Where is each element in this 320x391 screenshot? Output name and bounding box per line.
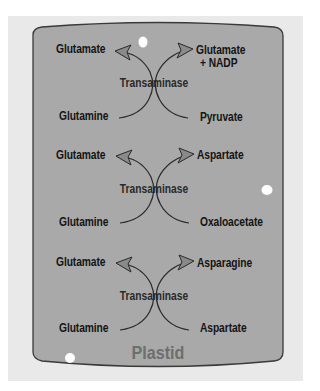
reaction-2-substrate-right: Oxaloacetate [200, 216, 263, 229]
compartment-label: Plastid [116, 343, 201, 363]
highlight-dot [262, 185, 273, 195]
reaction-2-product-right: Aspartate [197, 149, 244, 162]
reaction-3-substrate-right: Aspartate [200, 322, 247, 335]
reaction-2-product-left: Glutamate [56, 149, 105, 162]
reaction-3-substrate-left: Glutamine [59, 322, 108, 335]
reaction-3-product-right: Asparagine [197, 257, 252, 270]
highlight-dot [139, 37, 148, 48]
reaction-1-enzyme: Transaminase [117, 77, 191, 90]
reaction-1-substrate-left: Glutamine [59, 110, 108, 123]
reaction-3-product-left: Glutamate [56, 256, 105, 269]
highlight-dot [65, 353, 75, 363]
reaction-3-enzyme: Transaminase [117, 290, 191, 303]
reaction-2-enzyme: Transaminase [117, 183, 191, 196]
reaction-2-substrate-left: Glutamine [59, 216, 108, 229]
reaction-1-product-right-extra: + NADP [200, 57, 237, 70]
reaction-1-substrate-right: Pyruvate [200, 111, 243, 124]
reaction-1-product-left: Glutamate [56, 43, 105, 56]
